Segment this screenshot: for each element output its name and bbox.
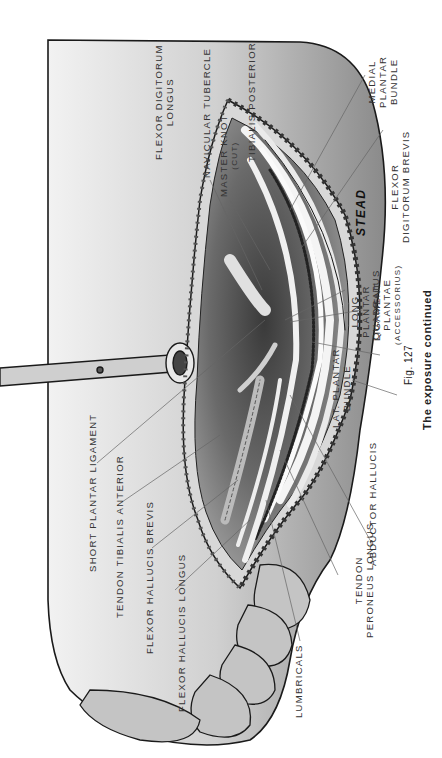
label-lat-plantar-bundle: LAT. PLANTARBUNDLE	[330, 348, 352, 428]
label-lumbricals: LUMBRICALS	[293, 644, 304, 718]
label-flexor-hallucis-longus: FLEXOR HALLUCIS LONGUS	[176, 554, 187, 712]
label-master-knot: MASTER KNOT(CUT)	[218, 114, 240, 197]
label-flexor-digitorum-longus: FLEXOR DIGITORUMLONGUS	[153, 44, 175, 160]
label-short-plantar-ligament: SHORT PLANTAR LIGAMENT	[87, 414, 98, 572]
figure-number: Fig. 127	[403, 345, 414, 385]
anatomical-illustration: STEAD MEDIALPLANTARBUNDLE FLEXORDIGITORU…	[0, 0, 442, 758]
label-flexor-hallucis-brevis: FLEXOR HALLUCIS BREVIS	[144, 501, 155, 654]
artist-signature: STEAD	[356, 189, 367, 236]
label-tendon-peroneus-longus: TENDONPERONEUS LONGUS	[353, 522, 375, 638]
label-tibialis-posterior: TIBIALIS POSTERIOR	[246, 42, 257, 162]
figure-caption: The exposure continued	[421, 290, 433, 430]
label-tendon-tibialis-anterior: TENDON TIBIALIS ANTERIOR	[114, 455, 125, 618]
label-navicular-tubercle: NAVICULAR TUBERCLE	[201, 48, 212, 178]
label-long-plantar-ligament: LONGPLANTARLIGAMENT	[349, 282, 382, 341]
label-flexor-digitorum-brevis: FLEXORDIGITORUM BREVIS	[389, 131, 411, 243]
label-medial-plantar-bundle: MEDIALPLANTARBUNDLE	[366, 56, 399, 108]
